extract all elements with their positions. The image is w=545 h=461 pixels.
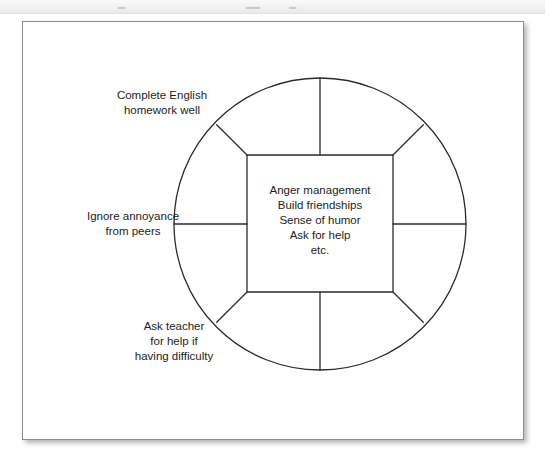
- toolbar-glyph-3-icon: ▬: [289, 3, 296, 10]
- toolbar-glyph-2-icon: ▬▬: [246, 3, 260, 10]
- top-toolbar-strip: ▬ ▬▬ ▬: [0, 0, 545, 14]
- toolbar-glyph-1-icon: ▬: [118, 3, 125, 10]
- label-ignore-annoyance-from-peers: Ignore annoyance from peers: [58, 209, 208, 239]
- label-ask-teacher-for-help: Ask teacher for help if having difficult…: [104, 319, 244, 364]
- label-complete-english-homework: Complete English homework well: [92, 88, 232, 118]
- core-skills-box-text: Anger management Build friendships Sense…: [247, 183, 393, 258]
